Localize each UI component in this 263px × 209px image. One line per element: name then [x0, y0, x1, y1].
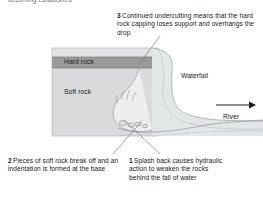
river-label: River: [223, 113, 239, 120]
callout-2-text: Pieces of soft rock break off and an ind…: [8, 157, 118, 172]
callout-1-text: Splash back causes hydraulic action to w…: [129, 157, 222, 181]
waterfall-formation-figure: becoming established: [0, 0, 263, 209]
callout-3-text: Continued undercutting means that the ha…: [117, 12, 254, 36]
hard-rock-label: Hard rock: [64, 58, 94, 65]
river-flow-arrow-icon: [216, 102, 256, 109]
callout-2: 2 Pieces of soft rock break off and an i…: [8, 157, 120, 174]
callout-1: 1 Splash back causes hydraulic action to…: [129, 157, 223, 182]
waterfall-label: Waterfall: [181, 72, 208, 79]
callout-3: 3 Continued undercutting means that the …: [117, 12, 263, 37]
waterfall-water: [152, 48, 263, 136]
soft-rock-label: Soft rock: [64, 88, 91, 95]
overburden-strip: [52, 48, 158, 57]
